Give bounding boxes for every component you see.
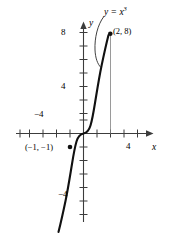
y-axis [80, 22, 88, 223]
equation-base: y = x [104, 7, 124, 17]
annotation-label-point-2-8: (2, 8) [113, 27, 131, 36]
marker-point-neg1-neg1 [68, 145, 73, 150]
marker-point-2-8 [108, 32, 113, 37]
equation-label: y = x3 [104, 8, 127, 18]
x-axis-arrowhead [146, 130, 154, 136]
y-tick-label-4: 4 [61, 82, 66, 91]
plot-area [0, 0, 171, 239]
y-tick-label-negative-4: −4 [58, 190, 68, 199]
annotation-label-point-neg1-neg1: (−1, −1) [25, 143, 53, 152]
x-axis-label: x [152, 143, 156, 153]
y-axis-label: y [89, 19, 93, 29]
x-tick-label-4: 4 [126, 142, 131, 151]
y-tick-label-8: 8 [61, 28, 66, 37]
y-axis-arrowhead [80, 22, 86, 30]
cubic-function-graph: 8 4 −4 −4 4 y x y = x3 (2, 8) (−1, −1) [0, 0, 171, 239]
x-tick-label-negative-4: −4 [34, 110, 44, 119]
equation-exponent: 3 [124, 5, 127, 12]
